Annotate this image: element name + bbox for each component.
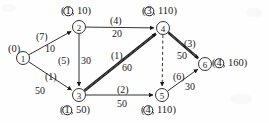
circled-number-icon: 1 <box>64 105 71 116</box>
edge-line <box>162 35 163 86</box>
label-close-paren: ) <box>88 5 92 16</box>
node-label-2: (1, 10) <box>61 6 91 17</box>
edge-cost-label-e23: (5) <box>58 56 70 66</box>
circled-number-icon: 4 <box>216 58 223 69</box>
label-close-paren: ) <box>87 104 91 115</box>
label-value: 10 <box>77 5 88 16</box>
edge-cost-label-e46: (3) <box>184 39 196 49</box>
node-label-5: (4, 110) <box>141 105 176 116</box>
edge-cost-label-e35: (2) <box>117 85 129 95</box>
edge-cost-label-e12: (7) <box>36 32 48 42</box>
node-label-3: (1, 50) <box>60 105 90 116</box>
edge-weight-label-e46: 50 <box>177 51 187 61</box>
node-id-text-1: 1 <box>21 54 26 63</box>
node-label-4: (3, 110) <box>142 6 177 17</box>
label-close-paren: ) <box>244 57 248 68</box>
edge-line <box>84 34 155 91</box>
circled-number-icon: 1 <box>65 6 72 17</box>
node-label-1: (0) <box>8 44 20 55</box>
label-close-paren: ) <box>173 5 177 16</box>
label-value: 160 <box>228 57 244 68</box>
edge-weight-label-e23: 30 <box>81 56 91 66</box>
edge-weight-label-e35: 50 <box>117 99 127 109</box>
node-label-6: (4, 160) <box>212 58 247 69</box>
edge-weight-label-e34: 60 <box>122 63 132 73</box>
edge-weight-label-e13: 50 <box>35 86 45 96</box>
node-id-text-2: 2 <box>77 23 82 32</box>
edge-cost-label-e13: (1) <box>45 72 57 82</box>
edge-3-to-4 <box>84 34 155 91</box>
graph-figure: (7)10(1)50(5)30(4)20(1)60(2)50(3)50(6)30… <box>0 0 269 123</box>
circled-number-icon: 4 <box>145 105 152 116</box>
edge-cost-label-e34: (1) <box>111 51 123 61</box>
node-id-text-3: 3 <box>77 91 82 100</box>
label-value: 110 <box>158 5 173 16</box>
edge-weight-label-e24: 20 <box>112 29 122 39</box>
edge-4-to-5 <box>162 35 163 86</box>
label-value: 50 <box>76 104 87 115</box>
edge-weight-label-e12: 10 <box>45 44 55 54</box>
label-value: 110 <box>157 104 172 115</box>
node-id-text-6: 6 <box>203 60 208 69</box>
node-id-text-5: 5 <box>160 91 165 100</box>
label-close-paren: ) <box>172 104 176 115</box>
node-id-text-4: 4 <box>161 24 166 33</box>
edge-cost-label-e24: (4) <box>110 16 122 26</box>
edge-cost-label-e56: (6) <box>173 72 185 82</box>
circled-number-icon: 3 <box>146 6 153 17</box>
edge-weight-label-e56: 30 <box>185 82 195 92</box>
